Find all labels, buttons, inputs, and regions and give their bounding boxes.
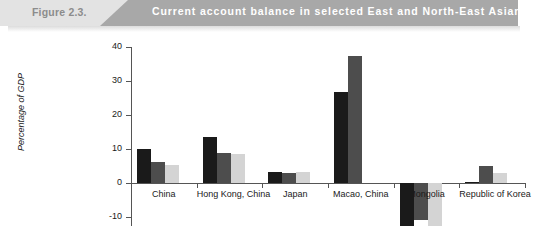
figure-title-label: Current account balance in selected East… <box>152 5 522 17</box>
bar-hong-kong-china-2009 <box>217 153 231 183</box>
figure-number-label: Figure 2.3. <box>32 6 87 18</box>
category-label-mongolia: Mongolia <box>394 189 460 199</box>
y-axis-title: Percentage of GDP <box>16 47 26 177</box>
y-axis-line <box>131 47 132 226</box>
y-tick-10 <box>126 149 131 150</box>
bar-macao-china-2008 <box>334 92 348 183</box>
y-tick-20 <box>126 115 131 116</box>
x-tick-0 <box>131 183 132 188</box>
x-tick-1 <box>197 183 198 188</box>
category-label-hong-kong-china: Hong Kong, China <box>197 189 263 199</box>
bar-china-2010 <box>165 165 179 183</box>
bar-china-2009 <box>151 162 165 183</box>
category-label-china: China <box>131 189 197 199</box>
bar-japan-2008 <box>268 172 282 183</box>
y-tick-label-20: 20 <box>82 109 122 119</box>
category-label-macao-china: Macao, China <box>328 189 394 199</box>
x-tick-6 <box>525 183 526 188</box>
y-tick-40 <box>126 47 131 48</box>
bar-chart: Percentage of GDP -10010203040 ChinaHong… <box>0 31 535 226</box>
bar-republic-of-korea-2009 <box>479 166 493 183</box>
figure-header: Figure 2.3. Current account balance in s… <box>0 0 535 31</box>
category-label-japan: Japan <box>262 189 328 199</box>
bar-hong-kong-china-2008 <box>203 137 217 183</box>
y-tick-label-40: 40 <box>82 41 122 51</box>
bar-republic-of-korea-2010 <box>493 173 507 183</box>
y-tick-label-30: 30 <box>82 75 122 85</box>
y-tick-30 <box>126 81 131 82</box>
bar-china-2008 <box>137 149 151 183</box>
bar-japan-2009 <box>282 173 296 183</box>
bar-hong-kong-china-2010 <box>231 154 245 183</box>
x-tick-2 <box>262 183 263 188</box>
x-tick-3 <box>328 183 329 188</box>
y-tick-label-10: 10 <box>82 143 122 153</box>
y-tick-label-0: 0 <box>82 177 122 187</box>
y-tick-label--10: -10 <box>82 211 122 221</box>
x-tick-4 <box>394 183 395 188</box>
category-label-republic-of-korea: Republic of Korea <box>459 189 525 199</box>
bar-republic-of-korea-2008 <box>465 182 479 183</box>
x-tick-5 <box>459 183 460 188</box>
bar-japan-2010 <box>296 172 310 183</box>
y-tick--10 <box>126 217 131 218</box>
bar-macao-china-2009 <box>348 56 362 183</box>
